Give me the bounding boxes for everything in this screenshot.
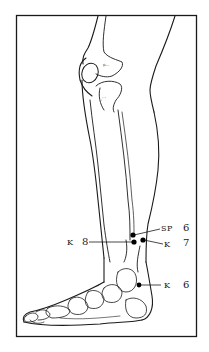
point-k8-marker [131, 239, 136, 244]
label-k8-number: 8 [82, 237, 88, 247]
svg-text:,' ': ,' ' [101, 96, 106, 101]
svg-text:p...: p... [103, 62, 109, 67]
label-sp6-meridian: SP [161, 224, 173, 234]
point-k7-marker [140, 237, 145, 242]
label-k7-number: 7 [183, 238, 189, 248]
label-sp6-number: 6 [183, 223, 189, 233]
label-k6-number: 6 [183, 280, 189, 290]
point-k6-marker [137, 283, 142, 288]
anatomy-figure: p... ,' ' [0, 0, 209, 352]
leg-illustration: p... ,' ' [0, 0, 209, 352]
label-k6-meridian: K [164, 281, 170, 291]
label-k8-meridian: K [67, 238, 73, 248]
label-k7-meridian: K [164, 240, 170, 250]
point-sp6-marker [130, 232, 135, 237]
